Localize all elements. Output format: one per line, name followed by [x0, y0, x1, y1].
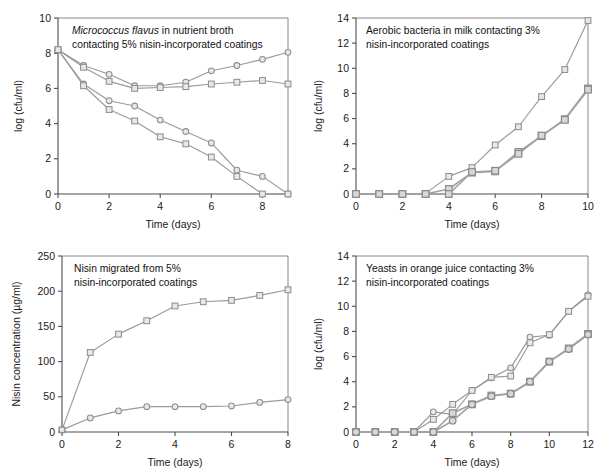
panel-caption-line1: Nisin migrated from 5%: [74, 263, 181, 274]
x-axis-tick-label: 8: [260, 200, 266, 212]
data-point-marker-square: [446, 191, 453, 198]
x-axis-title: Time (days): [145, 218, 200, 230]
series-line-nisin-circle: [58, 50, 288, 194]
x-axis-title: Time (days): [444, 218, 499, 230]
data-point-marker-square: [449, 410, 456, 417]
data-point-marker-square: [132, 86, 138, 92]
data-point-marker-square: [516, 124, 522, 130]
x-axis-tick-label: 0: [353, 200, 359, 212]
panel-caption-line2: nisin-incorporated coatings: [74, 277, 197, 288]
caption-rest: in nutrient broth: [159, 25, 234, 36]
y-axis-tick-label: 12: [337, 275, 349, 287]
y-axis-title: log (cfu/ml): [12, 80, 24, 132]
y-axis-tick-label: 8: [343, 325, 349, 337]
plot-area-bottom-right: 02468101214024681012Time (days)log (cfu/…: [312, 250, 594, 468]
data-point-marker-circle: [234, 167, 240, 173]
x-axis-tick-label: 0: [353, 438, 359, 450]
y-axis-tick-label: 200: [37, 285, 55, 297]
data-point-marker-circle: [546, 358, 553, 365]
data-point-marker-square: [172, 303, 178, 309]
y-axis-tick-label: 250: [37, 250, 55, 262]
series-line-nisin-circle: [356, 335, 588, 432]
data-point-marker-square: [257, 293, 263, 299]
y-axis-tick-label: 8: [45, 47, 51, 59]
y-axis-tick-label: 6: [343, 350, 349, 362]
data-point-marker-square: [376, 191, 383, 198]
data-point-marker-circle: [391, 429, 398, 436]
data-point-marker-square: [106, 107, 112, 113]
x-axis-tick-label: 10: [582, 200, 594, 212]
data-point-marker-square: [446, 174, 452, 180]
panel-caption-line2: nisin-incorporated coatings: [366, 39, 489, 50]
data-point-marker-square: [260, 78, 266, 84]
panel-caption-line1: Aerobic bacteria in milk contacting 3%: [366, 25, 540, 36]
data-point-marker-circle: [144, 404, 150, 410]
data-point-marker-circle: [285, 49, 291, 55]
x-axis-tick-label: 2: [399, 200, 405, 212]
data-point-marker-circle: [132, 103, 138, 109]
x-axis-tick-label: 8: [285, 438, 291, 450]
data-point-marker-circle: [353, 429, 360, 436]
y-axis-tick-label: 2: [45, 152, 51, 164]
y-axis-tick-label: 0: [343, 188, 349, 200]
data-point-marker-square: [208, 154, 214, 160]
data-point-marker-square: [585, 293, 591, 299]
x-axis-tick-label: 10: [543, 438, 555, 450]
data-point-marker-circle: [469, 401, 476, 408]
data-point-marker-circle: [507, 390, 514, 397]
data-point-marker-square: [183, 141, 189, 147]
y-axis-tick-label: 8: [343, 87, 349, 99]
data-point-marker-square: [422, 191, 429, 198]
y-axis-tick-label: 2: [343, 400, 349, 412]
data-point-marker-square: [585, 18, 591, 24]
data-point-marker-square: [469, 388, 475, 394]
data-point-marker-circle: [285, 397, 291, 403]
data-point-marker-square: [157, 85, 163, 91]
data-point-marker-circle: [508, 365, 514, 371]
x-axis-tick-label: 4: [430, 438, 436, 450]
figure-four-panel-nisin: 024681002468Time (days)log (cfu/ml)Micro…: [0, 0, 599, 476]
data-point-marker-circle: [527, 378, 534, 385]
x-axis-title: Time (days): [147, 456, 202, 468]
y-axis-title: log (cfu/ml): [312, 80, 324, 132]
x-axis-tick-label: 6: [229, 438, 235, 450]
y-axis-tick-label: 10: [337, 300, 349, 312]
data-point-marker-circle: [257, 400, 263, 406]
data-point-marker-square: [527, 340, 533, 346]
data-point-marker-square: [353, 191, 360, 198]
x-axis-tick-label: 2: [392, 438, 398, 450]
panel-caption-line1: Micrococcus flavus in nutrient broth: [72, 25, 234, 36]
x-axis-tick-label: 2: [106, 200, 112, 212]
data-point-marker-square: [492, 167, 499, 174]
data-point-marker-circle: [106, 98, 112, 104]
x-axis-tick-label: 8: [539, 200, 545, 212]
data-point-marker-square: [234, 79, 240, 85]
series-line-nisin-square-b: [356, 90, 588, 194]
data-point-marker-circle: [430, 409, 436, 415]
data-point-marker-circle: [200, 404, 206, 410]
x-axis-tick-label: 4: [157, 200, 163, 212]
x-axis-tick-label: 6: [492, 200, 498, 212]
data-point-marker-square: [144, 318, 150, 324]
series-line-nisin-square: [58, 50, 288, 194]
chart-panel-micrococcus-flavus: 024681002468Time (days)log (cfu/ml)Micro…: [0, 0, 299, 238]
data-point-marker-square: [562, 117, 569, 124]
data-point-marker-circle: [87, 415, 93, 421]
data-point-marker-circle: [565, 346, 572, 353]
data-point-marker-square: [132, 118, 138, 124]
data-point-marker-circle: [157, 117, 163, 123]
data-point-marker-square: [183, 84, 189, 90]
panel-caption-line1: Yeasts in orange juice contacting 3%: [366, 263, 534, 274]
data-point-marker-square: [539, 94, 545, 100]
data-point-marker-square: [430, 417, 436, 423]
data-point-marker-square: [566, 308, 572, 314]
data-point-marker-circle: [411, 429, 418, 436]
data-point-marker-square: [229, 297, 235, 303]
data-point-marker-square: [285, 191, 291, 197]
data-point-marker-square: [546, 332, 552, 338]
y-axis-tick-label: 12: [337, 37, 349, 49]
data-point-marker-circle: [183, 129, 189, 135]
data-point-marker-square: [469, 169, 476, 176]
data-point-marker-circle: [116, 408, 122, 414]
y-axis-tick-label: 4: [343, 375, 349, 387]
